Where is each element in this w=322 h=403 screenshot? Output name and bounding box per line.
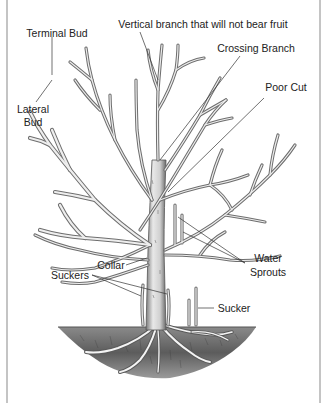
label-sucker: Sucker <box>218 302 251 314</box>
branch <box>30 112 150 245</box>
label-water-sprouts-line2: Sprouts <box>250 266 286 278</box>
branch <box>200 232 225 255</box>
leader-vertical-branch <box>140 32 158 80</box>
leader-crossing-branch <box>160 56 240 160</box>
branch-highlight <box>86 48 152 200</box>
label-lateral-bud-line1: Lateral <box>17 103 49 115</box>
leader-lateral-bud <box>36 80 52 102</box>
branch <box>176 58 204 70</box>
branch <box>86 48 152 200</box>
label-vertical-branch: Vertical branch that will not bear fruit <box>118 18 287 30</box>
label-suckers: Suckers <box>51 269 89 281</box>
branch <box>148 50 158 90</box>
label-lateral-bud-line2: Bud <box>24 116 43 128</box>
label-crossing-branch: Crossing Branch <box>217 42 295 54</box>
label-collar: Collar <box>97 259 125 271</box>
tree-illustration: Vertical branch that will not bear fruit… <box>0 0 322 403</box>
label-poor-cut: Poor Cut <box>265 81 307 93</box>
diagram-canvas: Vertical branch that will not bear fruit… <box>0 0 322 403</box>
branch-highlight <box>30 112 150 245</box>
branch <box>210 185 232 210</box>
label-water-sprouts-line1: Water <box>254 252 282 264</box>
branch-highlight <box>225 215 265 222</box>
label-terminal-bud: Terminal Bud <box>26 27 87 39</box>
